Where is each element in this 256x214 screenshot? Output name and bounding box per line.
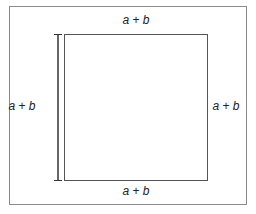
label-left: a + b	[8, 100, 35, 112]
dimension-line-left	[54, 34, 62, 181]
label-top: a + b	[122, 14, 149, 26]
outer-frame	[10, 7, 247, 205]
square	[65, 35, 208, 181]
label-bottom: a + b	[122, 185, 149, 197]
label-right: a + b	[212, 100, 239, 112]
